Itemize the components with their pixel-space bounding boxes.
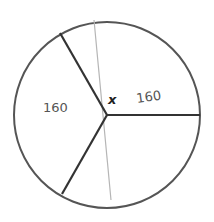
radius-lower-left xyxy=(62,115,107,194)
left-sector-label: 160 xyxy=(43,100,68,115)
upper-right-sector-label: 160 xyxy=(135,88,162,106)
angle-x-label: x xyxy=(107,92,117,107)
circle-diagram: 160 160 x xyxy=(0,0,214,222)
faint-pencil-line xyxy=(94,20,111,200)
